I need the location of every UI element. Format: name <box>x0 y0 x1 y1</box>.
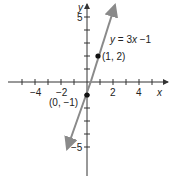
x-tick-label: −4 <box>30 87 42 98</box>
point-label: (1, 2) <box>102 51 125 62</box>
y-tick-label: −5 <box>71 142 83 153</box>
y-axis-label: y <box>77 2 84 13</box>
point-0-neg1 <box>84 92 89 97</box>
x-tick-label: 4 <box>136 87 142 98</box>
point-1-2 <box>95 53 100 58</box>
x-axis-label: x <box>156 87 163 98</box>
graph: −4 −2 2 4 x 5 −5 y (1, 2) (0, −1) y = 3x… <box>0 0 184 178</box>
x-tick-label: 2 <box>110 87 116 98</box>
y-tick-label: 5 <box>77 12 83 23</box>
equation-label: y = 3x −1 <box>109 34 152 45</box>
point-label: (0, −1) <box>49 97 78 108</box>
